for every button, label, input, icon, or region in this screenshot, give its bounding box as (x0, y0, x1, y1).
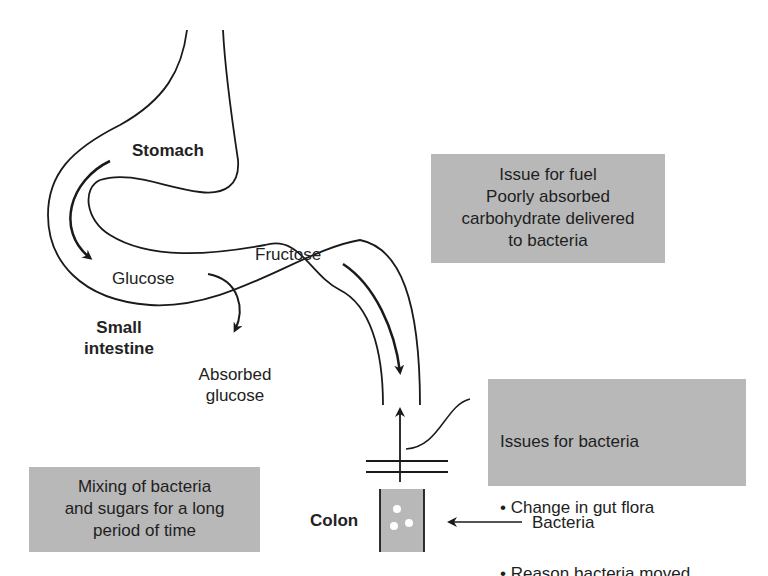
mixing-box: Mixing of bacteria and sugars for a long… (29, 467, 260, 552)
fructose-label: Fructose (255, 244, 321, 265)
bacteria-box-bullet: • Change in gut flora (500, 497, 746, 519)
stomach-label: Stomach (132, 140, 204, 161)
bacteria-dot (405, 519, 413, 527)
mixing-box-line: and sugars for a long (29, 498, 260, 520)
absorbed-glucose-label: Absorbed glucose (180, 364, 290, 406)
colon-segment (380, 489, 424, 552)
small-intestine-line-2: intestine (74, 338, 164, 359)
absorbed-glucose-line-1: Absorbed (180, 364, 290, 385)
glucose-label: Glucose (112, 268, 174, 289)
absorbed-glucose-line-2: glucose (180, 385, 290, 406)
colon-label: Colon (310, 510, 358, 531)
mixing-box-line: Mixing of bacteria (29, 476, 260, 498)
fuel-box-line: carbohydrate delivered (431, 208, 665, 230)
callout-connector (406, 399, 470, 449)
mixing-box-line: period of time (29, 520, 260, 542)
glucose-absorbed-arrow (208, 274, 240, 330)
fructose-arrow (343, 264, 400, 372)
fuel-issue-box: Issue for fuel Poorly absorbed carbohydr… (431, 154, 665, 263)
bacteria-dot (393, 505, 401, 513)
small-intestine-line-1: Small (74, 317, 164, 338)
fuel-box-line: Poorly absorbed (431, 186, 665, 208)
small-intestine-label: Small intestine (74, 317, 164, 359)
fuel-box-line: Issue for fuel (431, 164, 665, 186)
bacteria-box-bullet: • Reason bacteria moved (500, 563, 746, 576)
bacteria-dot (390, 522, 398, 530)
bacteria-box-heading: Issues for bacteria (500, 431, 746, 453)
bacteria-issues-box: Issues for bacteria • Change in gut flor… (488, 379, 746, 486)
fuel-box-line: to bacteria (431, 230, 665, 252)
